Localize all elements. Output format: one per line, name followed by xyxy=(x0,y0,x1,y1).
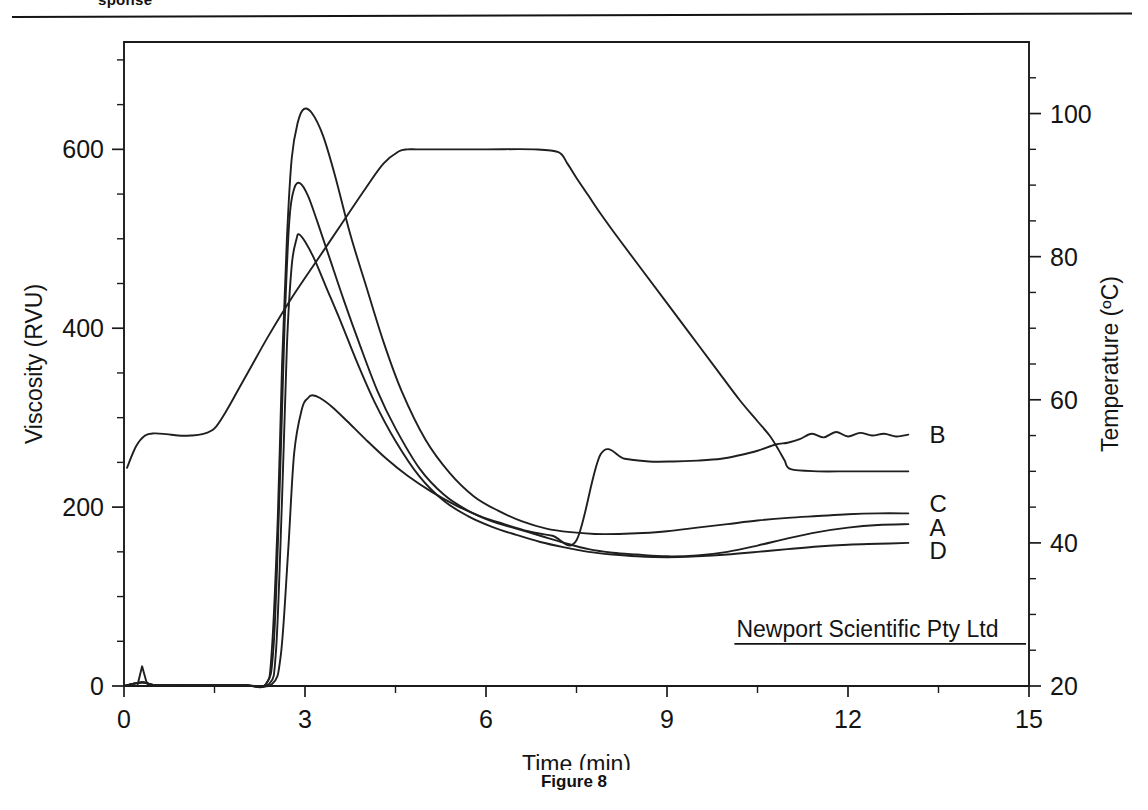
figure-caption: Figure 8 xyxy=(0,772,1148,792)
watermark: Newport Scientific Pty Ltd xyxy=(734,616,1026,644)
figure-page: sponse 03691215020040060020406080100Time… xyxy=(0,0,1148,810)
y2-tick-label: 60 xyxy=(1050,386,1078,414)
y2-tick-label: 40 xyxy=(1050,529,1078,557)
y-tick-label: 200 xyxy=(62,493,104,521)
y2-tick-label: 80 xyxy=(1050,243,1078,271)
plot-border xyxy=(124,42,1029,686)
series-annotations: BCAD xyxy=(929,421,946,564)
series-label-d: D xyxy=(929,537,946,564)
x-tick-label: 12 xyxy=(834,705,862,733)
y-tick-label: 0 xyxy=(90,672,104,700)
x-tick-label: 3 xyxy=(298,705,312,733)
y-tick-label: 600 xyxy=(62,135,104,163)
x-axis-title: Time (min) xyxy=(522,751,631,770)
chart-svg: 03691215020040060020406080100Time (min)V… xyxy=(0,0,1148,770)
plot-frame xyxy=(124,42,1029,686)
y2-axis-title: Temperature (ºC) xyxy=(1097,276,1123,452)
rva-viscosity-chart: 03691215020040060020406080100Time (min)V… xyxy=(0,0,1148,770)
x-tick-label: 6 xyxy=(479,705,493,733)
y-tick-label: 400 xyxy=(62,314,104,342)
curve-temperature xyxy=(127,149,908,471)
data-curves xyxy=(124,109,908,688)
y2-tick-label: 20 xyxy=(1050,672,1078,700)
x-tick-label: 9 xyxy=(660,705,674,733)
curve-a xyxy=(124,183,908,688)
y2-tick-label: 100 xyxy=(1050,100,1092,128)
axis-ticks xyxy=(112,60,1041,697)
x-tick-label: 0 xyxy=(117,705,131,733)
x-tick-label: 15 xyxy=(1015,705,1043,733)
y-axis-title: Viscosity (RVU) xyxy=(21,284,47,444)
series-label-b: B xyxy=(929,421,945,448)
series-label-c: C xyxy=(929,490,946,517)
watermark-text: Newport Scientific Pty Ltd xyxy=(736,616,998,642)
curve-c xyxy=(124,109,908,687)
